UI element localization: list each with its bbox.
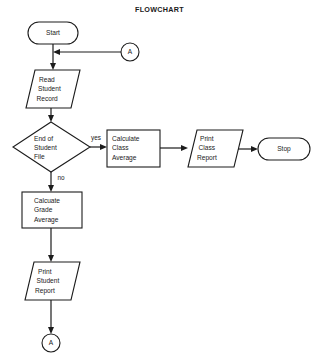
branch-label-no: no [57, 174, 65, 181]
node-read-student-record[interactable]: Read Student Record [26, 70, 80, 108]
edge-print-student-to-connector [48, 300, 54, 334]
connector-a-bottom-label: A [49, 339, 54, 346]
arrow-head-icon [50, 63, 56, 70]
stop-label: Stop [277, 145, 291, 153]
edge-grade-average-to-print [48, 228, 54, 262]
start-label: Start [46, 29, 60, 36]
node-connector-a-top[interactable]: A [121, 43, 139, 61]
calculate-class-average-line-2: Class [112, 144, 129, 151]
decision-line-2: Student [34, 144, 57, 151]
branch-label-yes: yes [91, 134, 101, 142]
arrow-head-icon [48, 115, 54, 122]
node-calculate-class-average[interactable]: Calculate Class Average [107, 130, 160, 167]
arrow-head-icon [48, 255, 54, 262]
node-print-student-report[interactable]: Print Student Report [25, 262, 80, 300]
node-start[interactable]: Start [28, 22, 78, 44]
edge-read-to-decision [48, 108, 54, 122]
edge-class-average-to-print [160, 145, 188, 151]
edge-decision-yes: yes [90, 134, 107, 150]
decision-line-3: File [34, 153, 45, 160]
print-class-report-line-2: Class [199, 144, 216, 151]
edge-print-class-to-stop [238, 146, 258, 152]
print-student-report-line-1: Print [38, 268, 52, 275]
arrow-head-icon [48, 327, 54, 334]
calcuate-grade-average-line-1: Calcuate [34, 197, 60, 204]
arrow-head-icon [48, 185, 54, 192]
calcuate-grade-average-line-3: Average [34, 216, 59, 224]
calcuate-grade-average-line-2: Grade [34, 206, 53, 213]
arrow-head-icon [251, 146, 258, 152]
decision-line-1: End of [34, 135, 53, 142]
calculate-class-average-line-3: Average [112, 154, 137, 162]
calculate-class-average-line-1: Calculate [112, 135, 140, 142]
flowchart-canvas: FLOWCHART Start A Read Student Record [0, 0, 319, 358]
read-student-record-line-1: Read [39, 76, 55, 83]
edge-decision-no: no [48, 172, 65, 192]
print-student-report-line-2: Student [37, 277, 60, 284]
print-class-report-line-3: Report [197, 154, 217, 162]
edge-start-to-read [50, 44, 56, 70]
read-student-record-line-3: Record [37, 95, 59, 102]
read-student-record-line-2: Student [38, 85, 61, 92]
arrow-head-icon [53, 49, 60, 55]
print-class-report-line-1: Print [200, 135, 214, 142]
arrow-head-icon [100, 144, 107, 150]
node-end-of-student-file[interactable]: End of Student File [13, 122, 90, 172]
connector-a-top-label: A [128, 48, 133, 55]
arrow-head-icon [181, 145, 188, 151]
node-stop[interactable]: Stop [258, 138, 310, 160]
print-class-report-shape [188, 130, 243, 167]
flowchart-diagram: Start A Read Student Record [0, 0, 319, 358]
edge-connector-a-to-flow [53, 49, 121, 55]
print-student-report-line-3: Report [35, 287, 55, 295]
node-connector-a-bottom[interactable]: A [42, 334, 60, 352]
node-calcuate-grade-average[interactable]: Calcuate Grade Average [22, 192, 82, 228]
node-print-class-report[interactable]: Print Class Report [188, 130, 243, 167]
